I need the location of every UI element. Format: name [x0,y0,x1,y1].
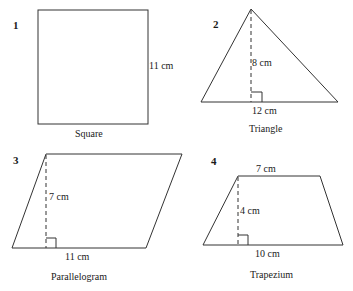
figure-2-number: 2 [213,19,219,30]
triangle-caption: Triangle [249,124,283,134]
figure-1-number: 1 [13,20,19,31]
trapezium-shape [203,176,343,245]
figure-3-number: 3 [13,155,19,166]
trapezium-caption: Trapezium [250,270,293,280]
parallelogram-height-label: 7 cm [49,192,69,202]
shapes-canvas [0,0,353,291]
square-shape [38,10,148,124]
triangle-shape [201,9,338,102]
square-side-label: 11 cm [149,61,173,71]
trapezium-base-label: 10 cm [255,249,280,259]
figure-4-number: 4 [211,156,217,167]
parallelogram-right-angle-mark [46,238,56,248]
parallelogram-caption: Parallelogram [51,272,107,282]
trapezium-right-angle-mark [238,235,248,245]
square-caption: Square [75,129,103,139]
trapezium-height-label: 4 cm [240,206,260,216]
triangle-right-angle-mark [251,92,262,102]
triangle-height-label: 8 cm [252,58,272,68]
triangle-base-label: 12 cm [252,106,277,116]
parallelogram-base-label: 11 cm [65,252,89,262]
trapezium-top-label: 7 cm [256,164,276,174]
parallelogram-shape [12,154,182,248]
